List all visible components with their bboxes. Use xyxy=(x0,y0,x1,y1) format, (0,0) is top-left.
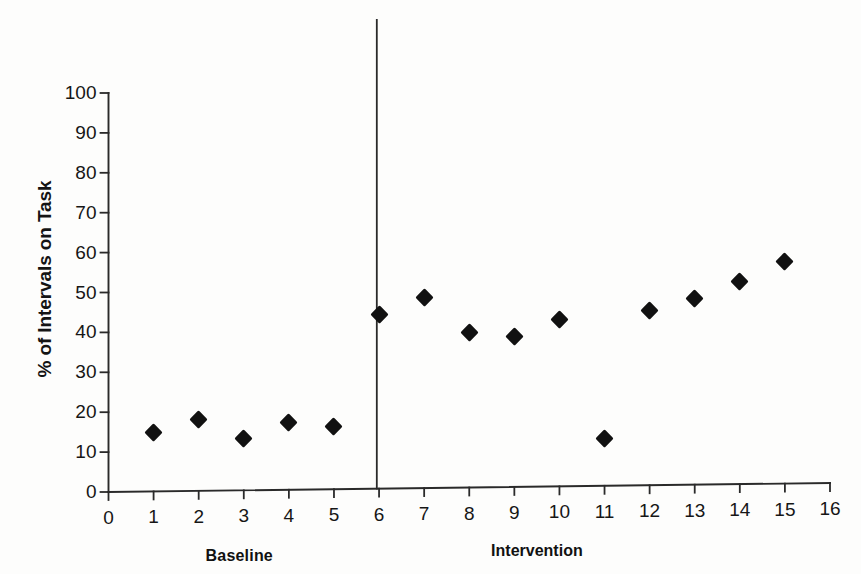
data-point-marker xyxy=(370,305,388,323)
data-point-marker xyxy=(776,252,794,270)
phase-label-intervention: Intervention xyxy=(437,542,637,560)
data-point-marker xyxy=(505,327,523,345)
data-point-marker xyxy=(686,289,704,307)
data-point-marker xyxy=(460,323,478,341)
data-point-marker xyxy=(280,413,298,431)
data-point-marker xyxy=(235,430,253,448)
data-point-marker xyxy=(325,417,343,435)
data-point-marker xyxy=(550,310,568,328)
data-point-marker xyxy=(144,423,162,441)
data-point-marker xyxy=(640,301,658,319)
single-subject-scatter-chart: % of Intervals on Task 01020304050607080… xyxy=(0,0,861,574)
data-point-marker xyxy=(415,288,433,306)
data-point-markers xyxy=(0,0,861,574)
data-point-marker xyxy=(731,273,749,291)
phase-label-baseline: Baseline xyxy=(139,547,339,565)
data-point-marker xyxy=(595,430,613,448)
data-point-marker xyxy=(189,410,207,428)
